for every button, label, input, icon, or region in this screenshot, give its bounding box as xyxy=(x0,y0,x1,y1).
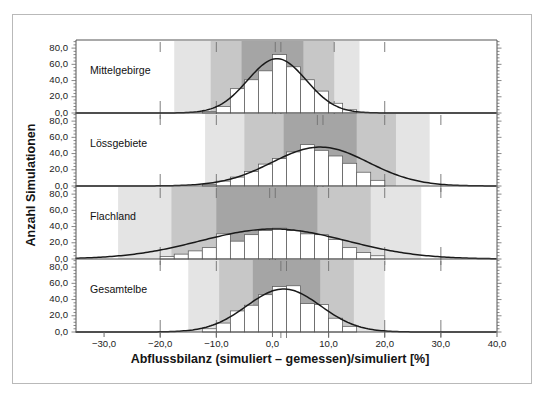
y-tick-label: 0,0 xyxy=(34,326,68,337)
x-tick-label: 0,0 xyxy=(250,338,294,349)
histogram-bar xyxy=(188,251,202,259)
histogram-bar xyxy=(258,71,272,113)
histogram-bar xyxy=(272,55,286,113)
histogram-bar xyxy=(343,163,357,186)
panel-label-lössgebiete: Lössgebiete xyxy=(90,137,147,149)
y-tick-label: 20,0 xyxy=(34,309,68,320)
histogram-bar xyxy=(287,152,301,186)
histogram-bar xyxy=(230,311,244,332)
histogram-bar xyxy=(287,231,301,259)
histogram-bar xyxy=(343,248,357,259)
y-tick-label: 60,0 xyxy=(34,58,68,69)
figure-root: Anzahl Simulationen Abflussbilanz (simul… xyxy=(0,0,544,399)
histogram-bar xyxy=(315,150,329,186)
histogram-bar xyxy=(272,228,286,259)
histogram-bar xyxy=(174,254,188,259)
histogram-bar xyxy=(258,231,272,259)
y-tick-label: 80,0 xyxy=(34,261,68,272)
y-tick-label: 80,0 xyxy=(34,188,68,199)
histogram-bar xyxy=(357,172,371,186)
histogram-bar xyxy=(371,180,385,186)
panel-label-flachland: Flachland xyxy=(90,210,136,222)
histogram-bar xyxy=(301,234,315,259)
histogram-bar xyxy=(329,318,343,332)
histogram-bar xyxy=(244,305,258,332)
x-axis-title: Abflussbilanz (simuliert – gemessen)/sim… xyxy=(60,352,500,366)
histogram-bar xyxy=(315,235,329,259)
x-tick-label: −10,0 xyxy=(194,338,238,349)
histogram-bar xyxy=(301,145,315,186)
histogram-bar xyxy=(216,234,230,259)
panel-label-mittelgebirge: Mittelgebirge xyxy=(90,64,151,76)
histogram-bar xyxy=(315,91,329,113)
x-tick-label: 10,0 xyxy=(307,338,351,349)
histogram-bar xyxy=(244,80,258,113)
y-tick-label: 80,0 xyxy=(34,42,68,53)
histogram-bar xyxy=(272,158,286,186)
y-tick-label: 40,0 xyxy=(34,74,68,85)
histogram-bar xyxy=(329,240,343,259)
x-tick-label: 40,0 xyxy=(475,338,519,349)
histogram-bar xyxy=(216,107,230,113)
histogram-bar xyxy=(343,326,357,332)
histogram-bar xyxy=(202,248,216,259)
histogram-bar xyxy=(329,156,343,186)
panel-label-gesamtelbe: Gesamtelbe xyxy=(90,283,147,295)
y-tick-label: 20,0 xyxy=(34,163,68,174)
histogram-bar xyxy=(272,287,286,332)
y-tick-label: 40,0 xyxy=(34,220,68,231)
y-tick-label: 20,0 xyxy=(34,236,68,247)
histogram-bar xyxy=(244,235,258,259)
x-tick-label: 30,0 xyxy=(419,338,463,349)
histogram-bar xyxy=(301,304,315,332)
histogram-bar xyxy=(230,241,244,259)
y-tick-label: 40,0 xyxy=(34,293,68,304)
histogram-bar xyxy=(258,295,272,332)
x-tick-label: −20,0 xyxy=(138,338,182,349)
histogram-bar xyxy=(301,80,315,113)
histogram-bar xyxy=(315,304,329,332)
y-tick-label: 20,0 xyxy=(34,90,68,101)
y-tick-label: 40,0 xyxy=(34,147,68,158)
y-tick-label: 60,0 xyxy=(34,204,68,215)
y-tick-label: 80,0 xyxy=(34,115,68,126)
y-tick-label: 60,0 xyxy=(34,277,68,288)
y-tick-label: 60,0 xyxy=(34,131,68,142)
histogram-bar xyxy=(287,67,301,113)
x-tick-label: −30,0 xyxy=(82,338,126,349)
histogram-bar xyxy=(216,323,230,332)
histogram-bar xyxy=(357,253,371,259)
x-tick-label: 20,0 xyxy=(363,338,407,349)
